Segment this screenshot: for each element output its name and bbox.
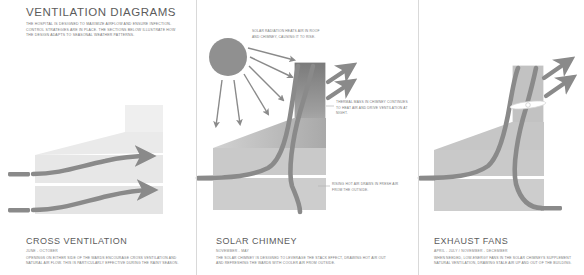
page-title: VENTILATION DIAGRAMS [26,6,196,18]
page-header: VENTILATION DIAGRAMS THE HOSPITAL IS DES… [26,6,196,39]
airflow-arrow-icon [328,82,352,98]
diagram-artwork [0,0,584,275]
caption-exhaust-fans: EXHAUST FANS APRIL - JULY / NOVEMBER - D… [434,236,584,267]
cross-ventilation-diagram [8,105,163,214]
caption-season: APRIL - JULY / NOVEMBER - DECEMBER [434,249,584,253]
caption-body: OPENINGS ON EITHER SIDE OF THE WARDS ENC… [26,256,194,267]
sun-icon [209,38,247,76]
airflow-arrow-icon [546,78,572,96]
exhaust-fans-diagram [418,60,572,211]
annotation-thermal-mass: THERMAL MASS IN CHIMNEY CONTINUES TO HEA… [336,100,412,117]
panel-divider [418,0,419,275]
caption-body: THE SOLAR CHIMNEY IS DESIGNED TO LEVERAG… [216,256,386,267]
caption-title: SOLAR CHIMNEY [216,236,386,246]
annotation-solar-radiation: SOLAR RADIATION HEATS AIR IN ROOF AND CH… [252,29,324,40]
panel-divider [196,0,197,275]
caption-season: JUNE - OCTOBER [26,249,194,253]
annotation-rising-air: RISING HOT AIR DRAWS IN FRESH AIR FROM T… [332,182,402,193]
caption-body: WHEN NEEDED, LOW-ENERGY FANS IN THE SOLA… [434,256,584,267]
solar-chimney-diagram [196,38,352,212]
caption-cross-ventilation: CROSS VENTILATION JUNE - OCTOBER OPENING… [26,236,194,267]
page-intro-text: THE HOSPITAL IS DESIGNED TO MAXIMIZE AIR… [26,22,178,39]
caption-solar-chimney: SOLAR CHIMNEY NOVEMBER - MAY THE SOLAR C… [216,236,386,267]
airflow-arrow-icon [544,60,570,78]
ventilation-diagrams-page: VENTILATION DIAGRAMS THE HOSPITAL IS DES… [0,0,584,275]
caption-title: EXHAUST FANS [434,236,584,246]
airflow-arrow-icon [328,66,352,82]
caption-title: CROSS VENTILATION [26,236,194,246]
caption-season: NOVEMBER - MAY [216,249,386,253]
